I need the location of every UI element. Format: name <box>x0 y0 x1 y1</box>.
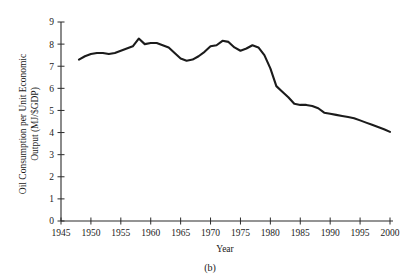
y-tick-label-0: 0 <box>49 216 54 226</box>
x-tick-label-1965: 1965 <box>171 228 190 238</box>
y-tick-label-3: 3 <box>49 150 54 160</box>
line-chart: 0123456789 19451950195519601965197019751… <box>0 0 419 277</box>
figure-caption: (b) <box>204 262 216 274</box>
x-tick-label-1960: 1960 <box>141 228 160 238</box>
y-tick-label-2: 2 <box>49 172 54 182</box>
x-axis-tick-labels: 1945195019551960196519701975198019851990… <box>52 228 400 238</box>
y-axis-label-line2: Output (MJ/$GDP) <box>30 87 41 161</box>
x-tick-label-1975: 1975 <box>231 228 250 238</box>
y-tick-label-5: 5 <box>49 106 54 116</box>
y-axis-label-line1: Oil Consumption per Unit Economic <box>18 54 28 194</box>
y-tick-label-9: 9 <box>49 17 54 27</box>
x-tick-label-1995: 1995 <box>351 228 370 238</box>
y-tick-label-6: 6 <box>49 84 54 94</box>
x-axis: 1945195019551960196519701975198019851990… <box>52 218 400 239</box>
x-tick-label-1980: 1980 <box>261 228 280 238</box>
x-axis-label: Year <box>216 244 234 254</box>
y-axis: 0123456789 <box>49 17 64 226</box>
x-tick-label-1955: 1955 <box>111 228 130 238</box>
x-tick-label-1970: 1970 <box>201 228 220 238</box>
y-axis-tick-labels: 0123456789 <box>49 17 54 226</box>
data-series-group <box>79 39 390 132</box>
x-tick-label-1950: 1950 <box>81 228 100 238</box>
figure-container: 0123456789 19451950195519601965197019751… <box>0 0 419 277</box>
x-tick-label-1985: 1985 <box>291 228 310 238</box>
x-tick-label-1990: 1990 <box>321 228 340 238</box>
y-tick-label-8: 8 <box>49 40 54 50</box>
data-line-oil-consumption <box>79 39 390 132</box>
x-tick-label-2000: 2000 <box>381 228 400 238</box>
y-tick-label-4: 4 <box>49 128 54 138</box>
y-tick-label-7: 7 <box>49 62 54 72</box>
x-tick-label-1945: 1945 <box>52 228 71 238</box>
y-tick-label-1: 1 <box>49 194 54 204</box>
